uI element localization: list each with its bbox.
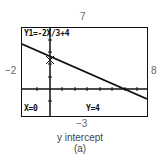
trace-x-value: X=0 <box>24 105 38 113</box>
calculator-screen: Y1=-2X/3+4 X=0 Y=4 <box>21 27 148 117</box>
function-line <box>22 44 147 99</box>
ymax-label: 7 <box>80 12 86 22</box>
xmax-label: 8 <box>151 66 157 76</box>
equation-label: Y1=-2X/3+4 <box>24 30 69 38</box>
graph-plot <box>22 28 147 116</box>
ymin-label: −3 <box>76 119 87 129</box>
trace-y-value: Y=4 <box>86 105 100 113</box>
caption-title: y intercept <box>0 132 160 143</box>
xmin-label: −2 <box>5 66 16 76</box>
axis-ticks <box>37 40 137 101</box>
caption-label: (a) <box>0 143 160 154</box>
